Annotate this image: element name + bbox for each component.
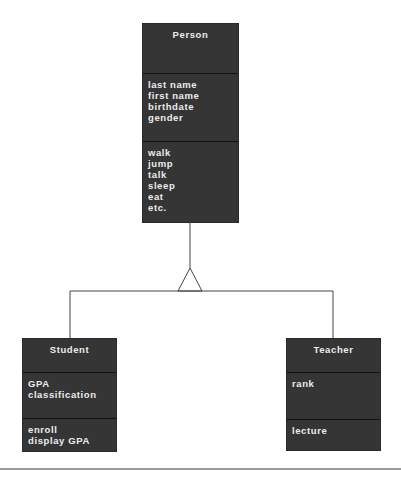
method: talk: [148, 169, 238, 180]
attribute: last name: [148, 79, 238, 90]
attribute: gender: [148, 112, 238, 123]
class-student: Student GPA classification enroll displa…: [22, 338, 117, 452]
method: walk: [148, 147, 238, 158]
class-name: Person: [143, 24, 238, 40]
attribute: GPA: [28, 378, 116, 389]
class-name: Teacher: [287, 339, 380, 355]
method: sleep: [148, 180, 238, 191]
attribute: first name: [148, 90, 238, 101]
method: eat: [148, 191, 238, 202]
methods-section: walk jump talk sleep eat etc.: [143, 141, 238, 222]
child-connector-line: [70, 291, 333, 338]
attributes-section: GPA classification: [23, 372, 116, 424]
class-name: Student: [23, 339, 116, 355]
methods-section: lecture: [287, 419, 380, 450]
method: jump: [148, 158, 238, 169]
class-person: Person last name first name birthdate ge…: [142, 23, 239, 223]
methods-section: enroll display GPA: [23, 418, 116, 451]
attributes-section: last name first name birthdate gender: [143, 73, 238, 147]
class-teacher: Teacher rank lecture: [286, 338, 381, 451]
attribute: rank: [292, 378, 380, 389]
generalization-triangle-icon: [178, 268, 202, 291]
method: enroll: [28, 424, 116, 435]
method: lecture: [292, 425, 380, 436]
attribute: birthdate: [148, 101, 238, 112]
attributes-section: rank: [287, 372, 380, 425]
attribute: classification: [28, 389, 116, 400]
bottom-divider-rule: [0, 468, 401, 470]
method: etc.: [148, 202, 238, 213]
method: display GPA: [28, 435, 116, 446]
